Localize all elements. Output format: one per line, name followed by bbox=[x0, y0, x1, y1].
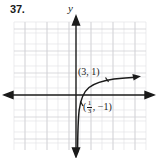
point-label-one-third-negative-one: (13, −1) bbox=[83, 100, 112, 115]
fraction-denominator: 3 bbox=[87, 108, 93, 115]
grid-lines bbox=[14, 22, 146, 150]
coordinate-plane-graph bbox=[0, 0, 160, 158]
x-axis bbox=[4, 92, 154, 99]
paren-open: ( bbox=[83, 101, 86, 112]
fraction-numerator: 1 bbox=[87, 100, 93, 107]
fraction-one-third: 13 bbox=[87, 100, 93, 115]
point-label-3-1: (3, 1) bbox=[78, 66, 100, 77]
point-label-remainder: , −1) bbox=[93, 101, 112, 112]
y-axis-label: y bbox=[68, 2, 73, 14]
figure-container: 37. bbox=[0, 0, 160, 158]
